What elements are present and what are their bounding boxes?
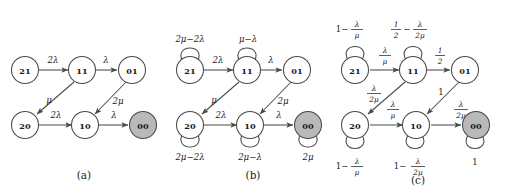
node-label-10: 10 bbox=[244, 121, 256, 131]
edge-20-10-den: μ bbox=[391, 111, 396, 120]
self-loop-20-den: μ bbox=[355, 168, 360, 177]
edge-label-10-00: λ bbox=[110, 110, 116, 120]
edge-label-01-10: 2μ bbox=[111, 96, 123, 106]
edge-label-10-00: λ bbox=[275, 110, 281, 120]
node-01[interactable]: 01 bbox=[119, 57, 146, 84]
node-21[interactable]: 21 bbox=[12, 57, 39, 84]
self-loop-label-10: 2μ−λ bbox=[237, 152, 262, 162]
edge-label-21-11: λ μ bbox=[379, 46, 391, 66]
node-11[interactable]: 11 bbox=[69, 57, 96, 84]
self-loop-11-num1: 1 bbox=[394, 20, 399, 29]
edge-20-10-num: λ bbox=[390, 100, 396, 109]
edge-label-21-11: 2λ bbox=[47, 55, 59, 65]
node-01[interactable]: 01 bbox=[284, 57, 311, 84]
self-loop-11-minus: − bbox=[403, 24, 410, 34]
node-10[interactable]: 10 bbox=[237, 112, 264, 139]
node-label-10: 10 bbox=[79, 121, 91, 131]
edge-11-20-den: 2μ bbox=[368, 95, 379, 104]
node-20[interactable]: 20 bbox=[12, 112, 39, 139]
edge-label-11-20: μ bbox=[46, 95, 52, 105]
edge-label-11-20: λ 2μ bbox=[367, 84, 381, 104]
self-loop-label-20: 2μ−2λ bbox=[174, 152, 204, 162]
edge-label-21-11: 2λ bbox=[212, 55, 224, 65]
panel-a: 2λ λ μ 2λ 2μ λ 21 11 01 20 10 00 bbox=[0, 0, 170, 196]
node-label-21: 21 bbox=[349, 66, 360, 76]
edge-label-01-10: 2μ bbox=[276, 96, 288, 106]
node-label-01: 01 bbox=[291, 66, 302, 76]
edge-21-11-num: λ bbox=[382, 46, 388, 55]
node-21[interactable]: 21 bbox=[177, 57, 204, 84]
node-11[interactable]: 11 bbox=[400, 57, 427, 84]
edge-label-01-10: 1 bbox=[438, 87, 443, 97]
self-loop-label-11: μ−λ bbox=[239, 34, 257, 44]
edge-label-20-10: 2λ bbox=[215, 110, 227, 120]
edge-label-20-10: λ μ bbox=[387, 100, 399, 120]
edge-01-10-lead: 1 bbox=[438, 87, 443, 97]
node-label-11: 11 bbox=[241, 66, 252, 76]
node-10[interactable]: 10 bbox=[72, 112, 99, 139]
node-00[interactable]: 00 bbox=[295, 112, 322, 139]
self-loop-10-lead: 1− bbox=[394, 161, 406, 171]
node-10[interactable]: 10 bbox=[403, 112, 430, 139]
caption-c: (c) bbox=[411, 174, 425, 186]
node-21[interactable]: 21 bbox=[342, 57, 369, 84]
caption-a: (a) bbox=[77, 169, 91, 181]
node-20[interactable]: 20 bbox=[342, 112, 369, 139]
node-label-01: 01 bbox=[459, 66, 470, 76]
self-loop-label-00: 1 bbox=[472, 157, 477, 167]
node-label-11: 11 bbox=[407, 66, 418, 76]
node-label-20: 20 bbox=[19, 121, 31, 131]
node-label-20: 20 bbox=[184, 121, 196, 131]
self-loop-label-00: 2μ bbox=[301, 152, 313, 162]
node-label-21: 21 bbox=[184, 66, 195, 76]
edge-label-11-01: 1 2 bbox=[435, 46, 445, 66]
edge-label-11-01: λ bbox=[267, 55, 273, 65]
node-label-10: 10 bbox=[410, 121, 422, 131]
node-label-00: 00 bbox=[137, 121, 149, 131]
self-loop-label-21: 2μ−2λ bbox=[174, 34, 204, 44]
node-label-00: 00 bbox=[302, 121, 314, 131]
node-label-00: 00 bbox=[470, 121, 482, 131]
panel-b: 2μ−2λ μ−λ 2μ−2λ 2μ−λ 2μ 2λ λ μ 2λ 2μ λ 2… bbox=[165, 0, 345, 196]
self-loop-label-11: 1 2 − λ 2μ bbox=[391, 20, 427, 40]
node-label-01: 01 bbox=[126, 66, 137, 76]
node-00[interactable]: 00 bbox=[130, 112, 157, 139]
self-loop-20-num: λ bbox=[354, 157, 360, 166]
self-loop-00-lead: 1 bbox=[472, 157, 477, 167]
edge-11-01-num: 1 bbox=[438, 46, 443, 55]
markov-chain-figure: 2λ λ μ 2λ 2μ λ 21 11 01 20 10 00 bbox=[0, 0, 511, 196]
self-loop-21-lead: 1− bbox=[336, 24, 348, 34]
node-11[interactable]: 11 bbox=[234, 57, 261, 84]
self-loop-20-lead: 1− bbox=[336, 161, 348, 171]
node-20[interactable]: 20 bbox=[177, 112, 204, 139]
self-loop-label-21: 1− λ μ bbox=[336, 20, 363, 40]
edge-11-01-den: 2 bbox=[437, 57, 443, 66]
node-label-11: 11 bbox=[76, 66, 87, 76]
edge-label-20-10: 2λ bbox=[50, 110, 62, 120]
self-loop-11-num: λ bbox=[417, 20, 423, 29]
node-label-21: 21 bbox=[19, 66, 30, 76]
caption-b: (b) bbox=[246, 169, 261, 181]
self-loop-11-den: 2μ bbox=[414, 31, 425, 40]
edge-label-11-01: λ bbox=[102, 55, 108, 65]
panel-c: 1− λ μ 1 2 − λ 2μ 1− λ μ 1− λ 2μ bbox=[330, 0, 511, 196]
node-01[interactable]: 01 bbox=[452, 57, 479, 84]
edge-10-00-num: λ bbox=[458, 100, 464, 109]
self-loop-label-20: 1− λ μ bbox=[336, 157, 363, 177]
edge-label-11-20: μ bbox=[211, 95, 217, 105]
edge-11-20-num: λ bbox=[371, 84, 377, 93]
self-loop-21-den: μ bbox=[355, 31, 360, 40]
node-label-20: 20 bbox=[349, 121, 361, 131]
node-00[interactable]: 00 bbox=[463, 112, 490, 139]
edge-21-11-den: μ bbox=[383, 57, 388, 66]
self-loop-21-num: λ bbox=[354, 20, 360, 29]
self-loop-11-den1: 2 bbox=[393, 31, 399, 40]
self-loop-10-num: λ bbox=[415, 157, 421, 166]
